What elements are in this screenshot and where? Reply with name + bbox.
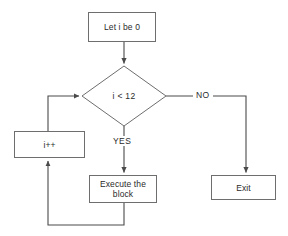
- edge-condition-no-to-exit: [166, 96, 246, 173]
- edge-increment-to-condition: [48, 96, 79, 131]
- edge-label-yes-text: YES: [113, 136, 131, 146]
- node-increment: i++: [14, 131, 85, 158]
- node-exit-label: Exit: [236, 183, 251, 193]
- node-condition-label: i < 12: [82, 66, 166, 126]
- node-init: Let i be 0: [88, 12, 156, 42]
- edge-label-no-text: NO: [196, 90, 210, 100]
- node-body-label-line1: Execute the: [100, 179, 146, 189]
- node-condition: i < 12: [82, 66, 166, 126]
- node-increment-label: i++: [43, 140, 55, 150]
- node-exit: Exit: [211, 175, 276, 200]
- edge-label-no: NO: [193, 90, 213, 100]
- node-body: Execute the block: [89, 175, 157, 203]
- node-body-label-line2: block: [113, 189, 133, 199]
- edge-label-yes: YES: [110, 136, 134, 146]
- node-init-label: Let i be 0: [104, 22, 140, 32]
- flowchart-canvas: Let i be 0 i < 12 NO YES i++ Execute the…: [0, 0, 288, 236]
